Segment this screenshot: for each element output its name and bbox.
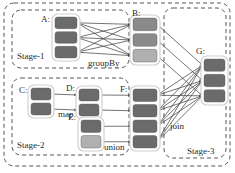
partition-F-2 (133, 120, 157, 133)
edge-A0-to-B0 (77, 23, 132, 25)
partition-D-1 (79, 104, 99, 116)
partition-E-0 (81, 120, 101, 133)
node-label-C: C: (19, 86, 28, 95)
partition-G-0 (204, 59, 225, 71)
stage-label-stage-2: Stage-2 (17, 141, 45, 150)
partition-B-0 (133, 18, 157, 31)
partition-G-2 (204, 90, 225, 102)
stage-label-stage-3: Stage-3 (187, 147, 215, 156)
partition-C-0 (31, 88, 51, 100)
edge-F3-to-G1 (157, 81, 203, 142)
partition-F-3 (133, 136, 157, 149)
node-label-F: F: (120, 85, 128, 94)
edge-A0-to-B2 (77, 23, 132, 56)
edge-A2-to-B0 (77, 24, 132, 52)
partition-A-1 (55, 32, 77, 44)
node-label-B: B: (132, 9, 141, 18)
partition-E-1 (81, 136, 101, 149)
operation-label-union: union (104, 143, 125, 152)
partition-F-0 (133, 89, 157, 102)
node-label-D: D: (66, 84, 75, 93)
diagram-canvas: Stage-1Stage-2Stage-3A:B:C:D:E:F:G:group… (0, 0, 235, 173)
partition-D-0 (79, 89, 99, 101)
partition-G-1 (204, 74, 225, 86)
edge-A1-to-B0 (77, 24, 132, 37)
partition-A-2 (55, 46, 77, 58)
partition-B-1 (133, 34, 157, 47)
node-label-G: G: (196, 47, 205, 56)
partition-C-1 (31, 103, 51, 115)
stage-label-stage-1: Stage-1 (17, 52, 45, 61)
partition-F-1 (133, 105, 157, 118)
operation-label-groupBy: groupBy (88, 59, 120, 68)
operation-label-map: map (58, 110, 74, 119)
node-label-A: A: (41, 15, 50, 24)
edge-A0-to-B1 (77, 23, 132, 40)
operation-label-join: join (170, 122, 184, 131)
edge-C0-to-D0 (51, 94, 78, 95)
partition-B-2 (133, 49, 157, 62)
edge-D1-to-F1 (99, 110, 132, 111)
partition-A-0 (55, 17, 77, 29)
